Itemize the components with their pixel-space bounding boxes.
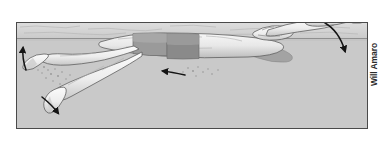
credit-label: Will Amaro bbox=[368, 28, 380, 86]
water-panel bbox=[16, 8, 372, 129]
illustration-figure: Will Amaro bbox=[0, 0, 391, 141]
swimsuit bbox=[133, 33, 199, 59]
swimmer-illustration bbox=[0, 0, 391, 141]
